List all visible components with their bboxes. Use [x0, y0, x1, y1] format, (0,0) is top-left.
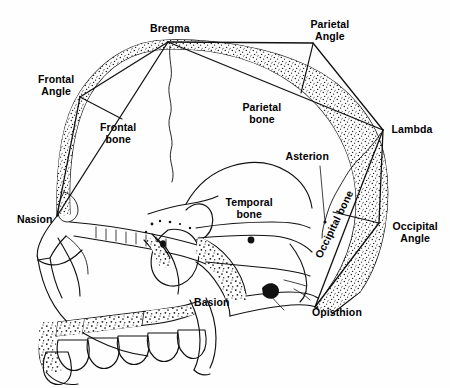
lambda-text: Lambda [392, 123, 433, 135]
nasal-aperture [38, 250, 82, 265]
basion-text: Basion [194, 296, 230, 308]
occipital-angle-text-2: Angle [393, 232, 438, 244]
teeth-row [43, 330, 206, 385]
label-temporal-bone: Temporalbone [226, 196, 273, 220]
label-occipital-angle: OccipitalAngle [393, 220, 438, 244]
foramen-spinosum [160, 240, 166, 248]
mandible-notch [194, 370, 210, 375]
frontal-bone-text: Frontal [100, 121, 136, 133]
styloid-marking [284, 280, 306, 286]
label-basion: Basion [194, 296, 230, 308]
mandible-ramus-posterior [206, 298, 216, 368]
label-parietal-angle: ParietalAngle [311, 18, 350, 42]
frontal-angle-drop [80, 97, 122, 119]
frontal-bone-text-2: bone [100, 133, 136, 145]
jugular-foramen [262, 283, 279, 298]
orbital-floor [74, 236, 206, 264]
coronal-suture [169, 46, 173, 182]
posterior-fossa-floor [230, 305, 318, 316]
label-parietal-bone: Parietalbone [243, 101, 282, 125]
asterion-leader-line [320, 166, 325, 222]
occipital-condyle-marking [294, 289, 310, 300]
temporal-bone-text: Temporal [226, 196, 273, 208]
nasion-text: Nasion [17, 213, 53, 225]
parietal-angle-text-2: Angle [311, 30, 350, 42]
infraorbital-margin [58, 238, 80, 296]
orbital-roof [70, 222, 212, 250]
parietal-angle-text: Parietal [311, 18, 350, 30]
skull-drawing [0, 0, 450, 388]
internal-acoustic-meatus [248, 237, 255, 244]
frontal-angle-text: Frontal [38, 73, 74, 85]
occipital-angle-text: Occipital [393, 220, 438, 232]
label-asterion: Asterion [286, 150, 329, 162]
opisthion-text: Opisthion [312, 306, 362, 318]
frontal-angle-text-2: Angle [38, 85, 74, 97]
cranium-diagram: // placeholder replaced below by binder … [0, 0, 450, 388]
asterion-text: Asterion [286, 150, 329, 162]
label-frontal-angle: FrontalAngle [38, 73, 74, 97]
parietal-bone-text-2: bone [243, 113, 282, 125]
hypoglossal-canal-marking [272, 297, 284, 310]
label-nasion: Nasion [17, 213, 53, 225]
label-lambda: Lambda [392, 123, 433, 135]
bregma-text: Bregma [150, 22, 190, 34]
label-opisthion: Opisthion [312, 306, 362, 318]
asterion-point [323, 220, 326, 223]
temporal-bone-text-2: bone [226, 208, 273, 220]
label-frontal-bone: Frontalbone [100, 121, 136, 145]
label-bregma: Bregma [150, 22, 190, 34]
parietal-bone-text: Parietal [243, 101, 282, 113]
anterior-cranial-floor [148, 196, 218, 214]
